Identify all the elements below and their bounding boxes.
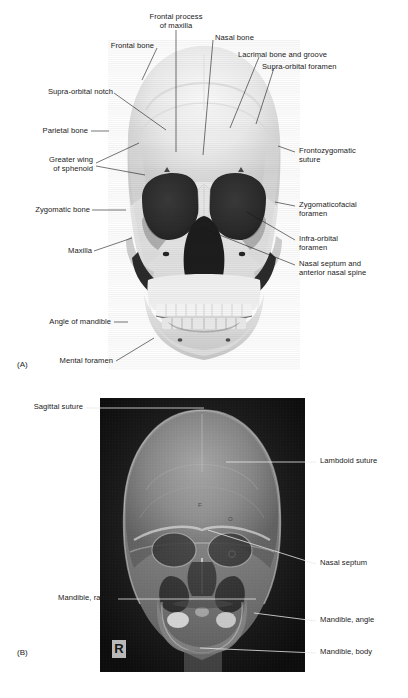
panel-b-radiograph-image: F O R — [100, 398, 305, 672]
label-greater-wing-of-sphenoid: Greater wing of sphenoid — [10, 155, 93, 174]
label-supra-orbital-notch: Supra-orbital notch — [10, 87, 113, 96]
panel-a-tag: (A) — [17, 360, 28, 369]
label-frontozygomatic-suture: Frontozygomatic suture — [299, 146, 356, 165]
label-nasal-septum: Nasal septum — [320, 558, 367, 567]
label-angle-of-mandible: Angle of mandible — [10, 317, 111, 326]
label-infra-orbital-foramen: Infra-orbital foramen — [299, 234, 338, 253]
label-mandible-body: Mandible, body — [320, 647, 372, 656]
orbit-letter-f: F — [198, 502, 202, 508]
orbit-letter-o: O — [228, 516, 233, 522]
label-parietal-bone: Parietal bone — [10, 126, 88, 135]
label-lacrimal-bone-and-groove: Lacrimal bone and groove — [238, 50, 327, 59]
label-mandible-ramus: Mandible, ramus — [10, 593, 115, 602]
anatomy-figure-skull-radiology: F O R — [0, 0, 408, 698]
label-sagittal-suture: Sagittal suture — [10, 402, 83, 411]
xray-skull-graphic — [100, 398, 305, 672]
label-nasal-septum-and-anterior-nasal-spine: Nasal septum and anterior nasal spine — [299, 259, 366, 278]
label-frontal-process-of-maxilla: Frontal process of maxilla — [126, 12, 226, 31]
panel-b-tag: (B) — [17, 648, 28, 657]
label-zygomatic-bone: Zygomatic bone — [10, 205, 90, 214]
label-lambdoid-suture: Lambdoid suture — [320, 456, 377, 465]
label-maxilla: Maxilla — [10, 246, 92, 255]
label-nasal-bone: Nasal bone — [215, 33, 254, 42]
label-supra-orbital-foramen: Supra-orbital foramen — [262, 62, 337, 71]
panel-a-ct-image — [108, 40, 300, 370]
side-marker-right: R — [112, 640, 126, 658]
label-frontal-bone: Frontal bone — [34, 41, 154, 50]
label-mandible-angle: Mandible, angle — [320, 615, 374, 624]
label-zygomaticofacial-foramen: Zygomaticofacial foramen — [299, 200, 357, 219]
ct-skull-graphic — [108, 40, 300, 370]
